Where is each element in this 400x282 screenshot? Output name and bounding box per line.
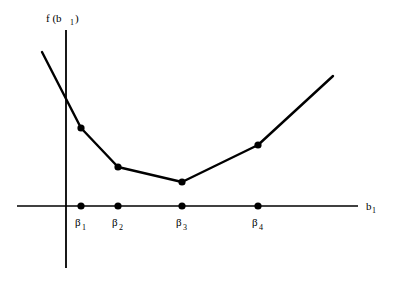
y-axis-label-close: ) bbox=[75, 12, 79, 25]
y-axis-label-subscript: 1 bbox=[70, 18, 74, 27]
x-axis-point-marker bbox=[178, 202, 185, 209]
x-axis-label-subscript: 1 bbox=[372, 206, 376, 215]
curve-point-marker bbox=[77, 124, 84, 131]
x-tick-label-base: β bbox=[176, 216, 182, 228]
x-tick-label-subscript: 3 bbox=[183, 223, 187, 232]
x-tick-label-subscript: 4 bbox=[259, 223, 263, 232]
x-tick-label-base: β bbox=[252, 216, 258, 228]
x-tick-label-subscript: 1 bbox=[82, 223, 86, 232]
curve-point-marker bbox=[178, 178, 185, 185]
x-axis-point-marker bbox=[254, 202, 261, 209]
figure-background bbox=[0, 0, 400, 282]
curve-point-marker bbox=[254, 141, 261, 148]
x-tick-label-base: β bbox=[112, 216, 118, 228]
x-tick-label-subscript: 2 bbox=[119, 223, 123, 232]
x-axis-point-marker bbox=[114, 202, 121, 209]
curve-point-marker bbox=[114, 163, 121, 170]
y-axis-label-base: f (b bbox=[46, 12, 62, 25]
function-plot-figure: f (b 1 ) b 1 β 1 β 2 β 3 β 4 bbox=[0, 0, 400, 282]
x-tick-label-base: β bbox=[75, 216, 81, 228]
x-axis-point-marker bbox=[77, 202, 84, 209]
